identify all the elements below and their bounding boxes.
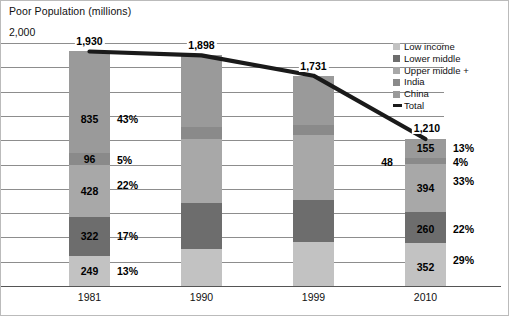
x-axis-tick-2010: 2010 bbox=[414, 291, 437, 303]
percent-label-2010-upper-middle: 33% bbox=[453, 175, 474, 187]
total-line-path bbox=[90, 52, 426, 140]
value-label-2010-india: 48 bbox=[381, 156, 393, 168]
x-axis-tick-1990: 1990 bbox=[190, 291, 213, 303]
chart-legend: Low income Lower middle Upper middle + I… bbox=[393, 41, 469, 112]
legend-swatch-icon-low-income bbox=[393, 43, 400, 50]
value-label-1981-low-income: 249 bbox=[81, 265, 99, 277]
value-label-1981-upper-middle: 428 bbox=[81, 185, 99, 197]
value-label-1981-lower-middle: 322 bbox=[81, 230, 99, 242]
legend-label-lower-middle: Lower middle bbox=[404, 53, 461, 65]
x-axis-tick-1981: 1981 bbox=[78, 291, 101, 303]
percent-label-1981-india: 5% bbox=[117, 154, 132, 166]
legend-item-low-income[interactable]: Low income bbox=[393, 41, 469, 53]
total-label-1990: 1,898 bbox=[186, 39, 216, 51]
percent-label-1981-low-income: 13% bbox=[117, 265, 138, 277]
legend-swatch-icon-china bbox=[393, 91, 400, 98]
y-axis-tick-2000: 2,000 bbox=[9, 26, 35, 38]
legend-label-low-income: Low income bbox=[404, 41, 455, 53]
legend-label-china: China bbox=[404, 88, 429, 100]
legend-line-icon-total bbox=[393, 104, 402, 107]
chart-title: Poor Population (millions) bbox=[9, 5, 131, 17]
value-label-1981-india: 96 bbox=[84, 153, 96, 165]
x-axis-line bbox=[0, 286, 501, 287]
legend-item-india[interactable]: India bbox=[393, 76, 469, 88]
value-label-2010-china: 155 bbox=[417, 142, 435, 154]
value-label-2010-lower-middle: 260 bbox=[417, 223, 435, 235]
percent-label-1981-upper-middle: 22% bbox=[117, 179, 138, 191]
value-label-2010-low-income: 352 bbox=[417, 261, 435, 273]
value-label-1981-china: 835 bbox=[81, 113, 99, 125]
legend-item-total[interactable]: Total bbox=[393, 100, 469, 112]
legend-swatch-icon-upper-middle bbox=[393, 67, 400, 74]
value-label-2010-upper-middle: 394 bbox=[417, 182, 435, 194]
x-axis-tick-1999: 1999 bbox=[302, 291, 325, 303]
legend-label-total: Total bbox=[404, 100, 424, 112]
legend-item-upper-middle[interactable]: Upper middle + bbox=[393, 65, 469, 77]
legend-label-india: India bbox=[404, 76, 425, 88]
total-label-1981: 1,930 bbox=[74, 35, 104, 47]
percent-label-2010-india: 4% bbox=[453, 156, 468, 168]
percent-label-2010-lower-middle: 22% bbox=[453, 223, 474, 235]
percent-label-1981-lower-middle: 17% bbox=[117, 230, 138, 242]
legend-item-china[interactable]: China bbox=[393, 88, 469, 100]
legend-swatch-icon-india bbox=[393, 79, 400, 86]
legend-item-lower-middle[interactable]: Lower middle bbox=[393, 53, 469, 65]
percent-label-2010-china: 13% bbox=[453, 142, 474, 154]
total-label-1999: 1,731 bbox=[298, 60, 328, 72]
legend-label-upper-middle: Upper middle + bbox=[404, 65, 469, 77]
legend-swatch-icon-lower-middle bbox=[393, 55, 400, 62]
percent-label-2010-low-income: 29% bbox=[453, 254, 474, 266]
total-label-2010: 1,210 bbox=[412, 122, 442, 134]
percent-label-1981-china: 43% bbox=[117, 113, 138, 125]
